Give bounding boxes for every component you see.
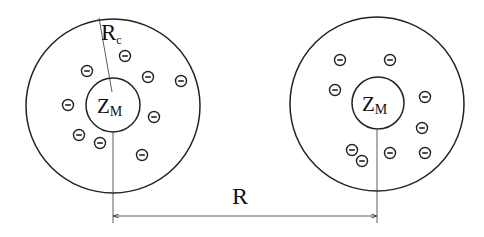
separation-label: R [232,183,248,209]
counterion [420,92,431,103]
counterion [95,138,106,149]
counterion [143,72,154,83]
counterion [420,148,431,159]
left-macroion-label: ZM [97,94,123,119]
cell-radius-label: Rc [101,20,122,47]
counterion [82,66,93,77]
counterion [63,100,74,111]
counterion [335,55,346,66]
counterion [347,145,358,156]
counterion [149,112,160,123]
counterion [417,123,428,134]
counterion [385,55,396,66]
counterion [385,148,396,159]
counterion [330,85,341,96]
two-cell-diagram: Rc ZM ZM R [0,0,484,237]
counterion [137,150,148,161]
counterion [74,130,85,141]
counterion [176,76,187,87]
separation-dimension: R [113,130,377,223]
left-counterions [63,51,187,161]
counterion [120,51,131,62]
right-macroion-label: ZM [362,92,388,117]
counterion [357,156,368,167]
